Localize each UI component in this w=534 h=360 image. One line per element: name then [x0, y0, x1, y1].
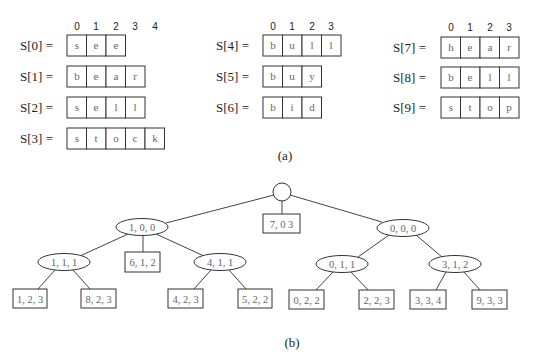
tree-edge [358, 235, 389, 257]
string-arrays-panel: 0 1 2 3 4 S[0] = s e e S[1] = [20, 21, 519, 163]
index-label: 2 [113, 21, 119, 32]
cell-char: o [487, 101, 493, 113]
array-s8: S[8] = b e l l [393, 67, 519, 88]
tree-leaf-node: 3, 3, 4 [410, 290, 446, 309]
cell-char: e [94, 70, 99, 82]
cell-char: l [114, 101, 117, 113]
tree-edge [194, 270, 211, 289]
cell-char: s [449, 101, 453, 113]
tree-edge [80, 234, 128, 256]
cell-char: e [94, 39, 99, 51]
tree-leaf-node: 9, 3, 3 [472, 290, 507, 309]
node-label: 1, 1, 1 [51, 257, 77, 268]
cell-char: u [289, 39, 295, 51]
tree-edge [351, 272, 368, 290]
cell-char: s [75, 101, 79, 113]
cell-char: k [152, 132, 158, 144]
tree-leaf-node: 6, 1, 2 [125, 252, 160, 272]
tree-edge [166, 195, 274, 223]
array-s4: S[4] = b u l l [216, 35, 341, 56]
cell-char: t [468, 101, 471, 113]
cell-char: b [270, 101, 276, 113]
leaf-label: 0, 2, 2 [293, 295, 319, 306]
array-name: S[8] = [393, 70, 426, 85]
cell-char: l [507, 71, 510, 83]
cell-char: i [290, 101, 293, 113]
index-header: 0 1 2 3 [448, 22, 512, 33]
tree-edge [156, 234, 204, 256]
array-s5: S[5] = b u y [216, 66, 322, 87]
leaf-label: 1, 2, 3 [17, 294, 43, 305]
tree-leaf-node: 0, 2, 2 [289, 290, 324, 309]
caption-a: (a) [278, 148, 292, 163]
leaf-label: 6, 1, 2 [129, 257, 155, 268]
tree-internal-node: 0, 1, 1 [316, 256, 368, 273]
cell-char: l [310, 39, 313, 51]
node-label: 4, 1, 1 [207, 257, 233, 268]
index-label: 3 [132, 21, 138, 32]
tree-internal-node: 4, 1, 1 [194, 254, 246, 271]
cell-char: e [94, 101, 99, 113]
tree-leaf-node: 5, 2, 2 [238, 289, 272, 308]
node-label: 3, 1, 2 [442, 259, 468, 270]
tree-edge [229, 270, 246, 289]
array-name: S[1] = [20, 69, 53, 84]
cell-char: p [506, 101, 512, 113]
tree-edge [436, 272, 446, 290]
index-label: 1 [93, 21, 99, 32]
array-s0: S[0] = s e e [20, 35, 126, 56]
array-name: S[7] = [393, 40, 426, 55]
cell-char: l [133, 101, 136, 113]
cell-char: o [113, 132, 119, 144]
leaf-label: 5, 2, 2 [242, 294, 268, 305]
array-s9: S[9] = s t o p [393, 97, 519, 118]
tree-edge [290, 195, 382, 222]
caption-b: (b) [284, 335, 299, 350]
leaf-label: 7, 0 3 [270, 219, 294, 230]
tree-edge [73, 270, 90, 289]
array-s3: S[3] = s t o c k [20, 128, 165, 149]
tree-leaf-node: 7, 0 3 [263, 214, 300, 233]
tree-edges [38, 195, 480, 290]
array-name: S[6] = [216, 100, 249, 115]
tree-internal-node: 0, 0, 0 [377, 220, 429, 237]
tree-leaf-node: 4, 2, 3 [168, 289, 203, 308]
cell-char: a [488, 41, 493, 53]
index-label: 0 [74, 21, 80, 32]
figure-canvas: 0 1 2 3 4 S[0] = s e e S[1] = [0, 0, 534, 360]
index-label: 1 [467, 22, 473, 33]
index-label: 0 [270, 21, 276, 32]
tree-leaf-node: 2, 2, 3 [359, 290, 394, 309]
node-label: 1, 0, 0 [129, 222, 155, 233]
index-label: 4 [152, 21, 158, 32]
cell-char: t [94, 132, 97, 144]
index-label: 3 [506, 22, 512, 33]
cell-char: s [75, 39, 79, 51]
leaf-label: 9, 3, 3 [476, 295, 502, 306]
cell-char: s [75, 132, 79, 144]
cell-char: a [114, 70, 119, 82]
index-label: 0 [448, 22, 454, 33]
cell-char: y [309, 70, 315, 82]
index-header: 0 1 2 3 [270, 21, 334, 32]
array-name: S[9] = [393, 100, 426, 115]
cell-char: d [309, 101, 315, 113]
cell-char: u [289, 70, 295, 82]
cell-char: l [488, 71, 491, 83]
tree-leaf-node: 8, 2, 3 [81, 289, 116, 308]
suffix-trie-panel: 1, 0, 0 0, 0, 0 1, 1, 1 4, 1, 1 0, 1, 1 … [13, 183, 507, 350]
array-name: S[2] = [20, 100, 53, 115]
cell-char: e [468, 41, 473, 53]
cell-char: r [133, 70, 137, 82]
cell-char: b [74, 70, 80, 82]
index-label: 3 [328, 21, 334, 32]
tree-root-node [273, 183, 291, 201]
cell-char: c [133, 132, 138, 144]
leaf-label: 3, 3, 4 [415, 295, 442, 306]
array-s7: S[7] = h e a r [393, 37, 519, 58]
tree-edge [316, 272, 333, 290]
leaf-label: 4, 2, 3 [172, 294, 198, 305]
array-s1: S[1] = b e a r [20, 66, 145, 87]
cell-char: e [114, 39, 119, 51]
node-label: 0, 0, 0 [390, 223, 416, 234]
